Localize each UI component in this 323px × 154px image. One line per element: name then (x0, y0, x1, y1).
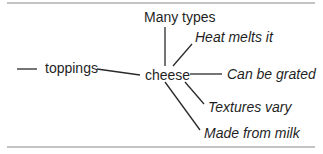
node-cheese: cheese (145, 67, 190, 83)
node-heat-melts-it: Heat melts it (195, 29, 274, 45)
edge-cheese-heat-melts-it (173, 44, 192, 66)
node-can-be-grated: Can be grated (227, 66, 317, 82)
node-made-from-milk: Made from milk (204, 125, 301, 141)
node-toppings: toppings (45, 60, 98, 76)
concept-map: toppings cheese Many types Heat melts it… (0, 0, 323, 154)
node-textures-vary: Textures vary (208, 99, 293, 115)
edge-toppings-cheese (97, 69, 140, 75)
node-many-types: Many types (144, 9, 216, 25)
edge-cheese-textures-vary (185, 82, 204, 104)
edge-cheese-made-from-milk (165, 82, 200, 130)
